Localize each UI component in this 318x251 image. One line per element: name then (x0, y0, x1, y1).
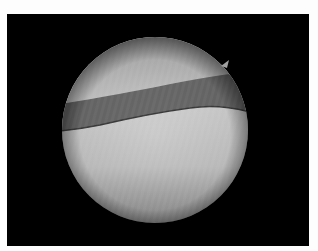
arthroscopic-view (0, 0, 318, 251)
field-of-view (60, 36, 250, 226)
